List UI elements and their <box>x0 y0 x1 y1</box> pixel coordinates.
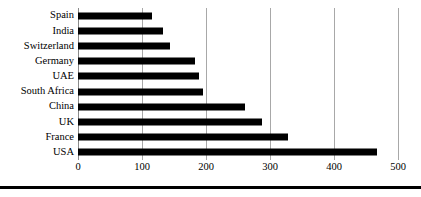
bar-track <box>78 69 421 84</box>
bar-track <box>78 99 421 114</box>
category-label-france: France <box>0 132 78 143</box>
bar-india <box>78 27 163 34</box>
bar-china <box>78 103 245 110</box>
category-label-switzerland: Switzerland <box>0 41 78 52</box>
category-label-india: India <box>0 26 78 37</box>
bar-track <box>78 38 421 53</box>
plot-area: SpainIndiaSwitzerlandGermanyUAESouth Afr… <box>0 8 421 160</box>
bar-track <box>78 23 421 38</box>
bar-row: China <box>0 99 421 114</box>
x-tick-400: 400 <box>326 162 342 173</box>
bar-row: India <box>0 23 421 38</box>
x-tick-0: 0 <box>75 162 80 173</box>
bar-track <box>78 130 421 145</box>
bar-chart-figure: SpainIndiaSwitzerlandGermanyUAESouth Afr… <box>0 0 421 197</box>
category-label-china: China <box>0 101 78 112</box>
bar-row: USA <box>0 145 421 160</box>
x-tick-500: 500 <box>390 162 406 173</box>
bar-usa <box>78 149 377 156</box>
bar-uk <box>78 118 262 125</box>
bar-row: UAE <box>0 69 421 84</box>
bar-track <box>78 114 421 129</box>
bar-row: France <box>0 130 421 145</box>
bar-row: Germany <box>0 54 421 69</box>
bar-uae <box>78 73 199 80</box>
bar-switzerland <box>78 42 170 49</box>
bar-row: South Africa <box>0 84 421 99</box>
x-tick-200: 200 <box>198 162 214 173</box>
x-tick-300: 300 <box>262 162 278 173</box>
bar-france <box>78 134 288 141</box>
bar-track <box>78 145 421 160</box>
bar-track <box>78 8 421 23</box>
bar-row: UK <box>0 114 421 129</box>
category-label-spain: Spain <box>0 10 78 21</box>
bar-spain <box>78 12 152 19</box>
category-label-uk: UK <box>0 117 78 128</box>
bar-germany <box>78 58 195 65</box>
bar-row: Switzerland <box>0 38 421 53</box>
bar-rows: SpainIndiaSwitzerlandGermanyUAESouth Afr… <box>0 8 421 160</box>
category-label-south-africa: South Africa <box>0 86 78 97</box>
bar-south-africa <box>78 88 203 95</box>
category-label-usa: USA <box>0 147 78 158</box>
category-label-germany: Germany <box>0 56 78 67</box>
bar-track <box>78 54 421 69</box>
x-tick-100: 100 <box>134 162 150 173</box>
bar-track <box>78 84 421 99</box>
bottom-rule-divider <box>0 186 421 189</box>
category-label-uae: UAE <box>0 71 78 82</box>
x-axis-tick-labels: 0100200300400500 <box>78 162 398 178</box>
bar-row: Spain <box>0 8 421 23</box>
